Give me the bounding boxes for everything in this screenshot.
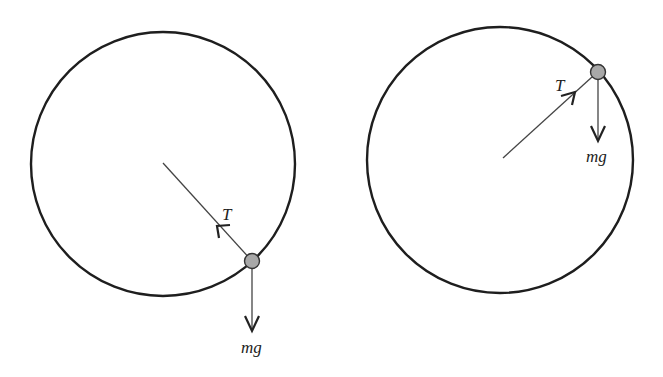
diagram-canvas: T mg T mg: [0, 0, 663, 377]
tension-arrowhead-icon: [217, 225, 230, 238]
mass-ball: [591, 65, 606, 80]
tension-vector-line: [163, 163, 252, 261]
diagram-upper-position: T mg: [367, 27, 633, 293]
weight-label: mg: [241, 338, 262, 357]
tension-label: T: [222, 205, 233, 224]
weight-label: mg: [586, 147, 607, 166]
tension-label: T: [555, 76, 566, 95]
vertical-circle-free-body-diagrams: T mg T mg: [0, 0, 663, 377]
diagram-lower-position: T mg: [31, 32, 295, 357]
mass-ball: [245, 254, 260, 269]
tension-vector-line: [503, 77, 592, 158]
